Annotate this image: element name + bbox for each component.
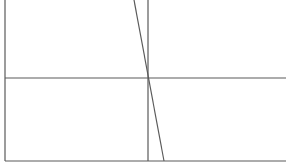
background [0,0,286,166]
diagram-canvas [0,0,286,166]
